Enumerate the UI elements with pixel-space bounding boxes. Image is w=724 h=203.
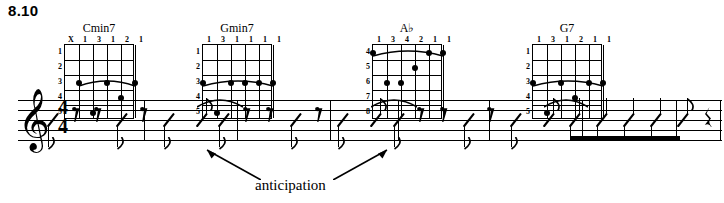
finger-dot [242,80,248,86]
fingering-digit: 1 [272,35,286,44]
finger-dot [586,80,592,86]
eighth-rest [315,106,324,123]
eighth-rest [440,106,449,123]
fret-number: 1 [58,48,62,56]
chord-fingering-row: 131211 [532,35,616,44]
time-signature-beat-value: 4 [58,117,68,136]
fingering-digit: 1 [372,35,386,44]
finger-dot [558,80,564,86]
finger-dot [384,80,390,86]
eighth-flag [164,137,175,150]
fingering-digit: 1 [588,35,602,44]
fingering-digit: 3 [386,35,400,44]
eighth-rest [266,106,275,123]
fret-line [203,60,271,61]
finger-dot [370,50,376,56]
finger-dot [76,80,82,86]
fingering-digit: 1 [560,35,574,44]
quarter-rest [703,107,713,133]
chord-name: G7 [518,22,616,35]
staff-line [18,130,722,131]
beamed-note-stem [597,125,598,138]
fret-line [373,60,441,61]
fret-line [533,60,601,61]
treble-clef-icon: 𝄞 [18,92,50,146]
fret-line [65,75,133,76]
fret-number: 1 [196,48,200,56]
fingering-digit: 1 [78,35,92,44]
fingering-digit: 1 [532,35,546,44]
fingering-digit: 3 [92,35,106,44]
fingering-digit: 2 [120,35,134,44]
barre-arc [373,48,443,57]
eighth-flag [687,98,698,111]
finger-dot [412,65,418,71]
chord-fingering-row: X13121 [64,35,148,44]
note-stem [606,98,607,115]
fingering-digit: 1 [134,35,148,44]
fret-line [373,75,441,76]
chord-name: Cmin7 [50,22,148,35]
eighth-flag [117,137,128,150]
fret-number: 3 [58,78,62,86]
eighth-flag [464,137,475,150]
note-stem [633,98,634,115]
fingering-digit: 1 [202,35,216,44]
fret-line [203,75,271,76]
fret-line [203,90,271,91]
barre-arc [203,78,273,87]
fingering-digit: 3 [216,35,230,44]
fret-line [373,90,441,91]
finger-dot [440,50,446,56]
staff-line [18,100,722,101]
eighth-rest [72,106,81,123]
chord-name: A♭ [358,22,456,35]
annotation-arrow [205,148,261,180]
fret-line [533,75,601,76]
chord-fingering-row: 131111 [202,35,286,44]
barline [330,100,331,140]
fingering-digit: X [64,35,78,44]
annotation-arrow [333,148,389,180]
fingering-digit: 2 [414,35,428,44]
fingering-digit: 2 [574,35,588,44]
beamed-note-stem [651,125,652,138]
fingering-digit: 3 [546,35,560,44]
fret-number: 2 [58,63,62,71]
anticipation-tie [544,96,588,109]
note-stem [660,98,661,115]
eighth-rest [417,106,426,123]
finger-dot [256,80,262,86]
fingering-digit: 1 [602,35,616,44]
finger-dot [600,80,606,86]
anticipation-label: anticipation [255,177,326,194]
fingering-digit: 1 [428,35,442,44]
fingering-digit: 1 [230,35,244,44]
staff-line [18,110,722,111]
finger-dot [132,80,138,86]
eighth-rest [94,106,103,123]
finger-dot [200,80,206,86]
eighth-flag [511,137,522,150]
fingering-digit: 1 [258,35,272,44]
finger-dot [104,80,110,86]
fret-number: 2 [526,63,530,71]
finger-dot [270,80,276,86]
fingering-digit: 1 [442,35,456,44]
fret-number: 6 [366,78,370,86]
fret-number: 5 [366,63,370,71]
eighth-flag [48,137,59,150]
fret-number: 1 [526,48,530,56]
fret-line [65,90,133,91]
eighth-rest [140,106,149,123]
eighth-flag [291,137,302,150]
chord-fingering-row: 134211 [372,35,456,44]
anticipation-tie [197,96,243,109]
fret-line [65,60,133,61]
fingering-digit: 4 [400,35,414,44]
finger-dot [228,80,234,86]
time-signature: 4 4 [58,98,68,136]
fingering-digit: 1 [106,35,120,44]
example-number: 8.10 [8,2,38,19]
beamed-note-stem [624,125,625,138]
